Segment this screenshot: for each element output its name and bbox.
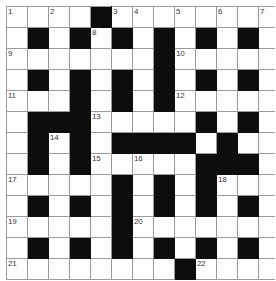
letter-cell[interactable] xyxy=(7,70,28,91)
letter-cell[interactable] xyxy=(91,196,112,217)
letter-cell[interactable]: 18 xyxy=(217,175,238,196)
letter-cell[interactable] xyxy=(259,259,276,280)
letter-cell[interactable] xyxy=(28,7,49,28)
letter-cell[interactable] xyxy=(259,28,276,49)
letter-cell[interactable] xyxy=(259,175,276,196)
letter-cell[interactable] xyxy=(91,133,112,154)
letter-cell[interactable] xyxy=(259,217,276,238)
letter-cell[interactable] xyxy=(238,259,259,280)
letter-cell[interactable] xyxy=(7,196,28,217)
letter-cell[interactable]: 2 xyxy=(49,7,70,28)
letter-cell[interactable] xyxy=(28,175,49,196)
letter-cell[interactable]: 12 xyxy=(175,91,196,112)
letter-cell[interactable] xyxy=(7,238,28,259)
letter-cell[interactable] xyxy=(217,196,238,217)
letter-cell[interactable] xyxy=(217,217,238,238)
letter-cell[interactable] xyxy=(238,49,259,70)
letter-cell[interactable] xyxy=(7,133,28,154)
letter-cell[interactable]: 6 xyxy=(217,7,238,28)
letter-cell[interactable] xyxy=(238,175,259,196)
letter-cell[interactable] xyxy=(112,112,133,133)
letter-cell[interactable] xyxy=(133,259,154,280)
letter-cell[interactable]: 4 xyxy=(133,7,154,28)
letter-cell[interactable]: 16 xyxy=(133,154,154,175)
letter-cell[interactable] xyxy=(196,133,217,154)
letter-cell[interactable] xyxy=(196,49,217,70)
letter-cell[interactable] xyxy=(196,217,217,238)
letter-cell[interactable] xyxy=(49,259,70,280)
letter-cell[interactable] xyxy=(49,91,70,112)
letter-cell[interactable] xyxy=(154,154,175,175)
letter-cell[interactable] xyxy=(154,112,175,133)
letter-cell[interactable] xyxy=(70,217,91,238)
letter-cell[interactable]: 13 xyxy=(91,112,112,133)
letter-cell[interactable] xyxy=(91,91,112,112)
letter-cell[interactable] xyxy=(196,7,217,28)
letter-cell[interactable] xyxy=(175,196,196,217)
letter-cell[interactable] xyxy=(259,196,276,217)
letter-cell[interactable] xyxy=(112,154,133,175)
letter-cell[interactable] xyxy=(133,49,154,70)
letter-cell[interactable] xyxy=(70,7,91,28)
letter-cell[interactable] xyxy=(91,259,112,280)
letter-cell[interactable]: 17 xyxy=(7,175,28,196)
letter-cell[interactable] xyxy=(7,112,28,133)
letter-cell[interactable] xyxy=(217,28,238,49)
letter-cell[interactable] xyxy=(133,175,154,196)
letter-cell[interactable] xyxy=(133,238,154,259)
letter-cell[interactable] xyxy=(49,217,70,238)
letter-cell[interactable] xyxy=(259,70,276,91)
letter-cell[interactable] xyxy=(217,70,238,91)
letter-cell[interactable] xyxy=(175,175,196,196)
letter-cell[interactable] xyxy=(238,91,259,112)
letter-cell[interactable] xyxy=(238,217,259,238)
letter-cell[interactable] xyxy=(154,7,175,28)
letter-cell[interactable] xyxy=(133,112,154,133)
letter-cell[interactable] xyxy=(28,217,49,238)
letter-cell[interactable] xyxy=(91,217,112,238)
letter-cell[interactable] xyxy=(133,91,154,112)
letter-cell[interactable]: 22 xyxy=(196,259,217,280)
letter-cell[interactable] xyxy=(175,112,196,133)
letter-cell[interactable] xyxy=(28,259,49,280)
letter-cell[interactable] xyxy=(70,259,91,280)
letter-cell[interactable] xyxy=(175,154,196,175)
letter-cell[interactable] xyxy=(238,133,259,154)
letter-cell[interactable] xyxy=(91,49,112,70)
letter-cell[interactable] xyxy=(91,70,112,91)
letter-cell[interactable] xyxy=(217,238,238,259)
letter-cell[interactable]: 10 xyxy=(175,49,196,70)
letter-cell[interactable] xyxy=(49,28,70,49)
letter-cell[interactable] xyxy=(259,49,276,70)
letter-cell[interactable]: 15 xyxy=(91,154,112,175)
letter-cell[interactable] xyxy=(49,70,70,91)
letter-cell[interactable] xyxy=(133,196,154,217)
letter-cell[interactable] xyxy=(70,175,91,196)
letter-cell[interactable]: 7 xyxy=(259,7,276,28)
letter-cell[interactable] xyxy=(175,28,196,49)
letter-cell[interactable] xyxy=(7,154,28,175)
crossword-grid[interactable]: 12345678910111213141516171819202122 xyxy=(6,6,275,280)
letter-cell[interactable]: 20 xyxy=(133,217,154,238)
letter-cell[interactable] xyxy=(259,238,276,259)
letter-cell[interactable] xyxy=(91,238,112,259)
letter-cell[interactable] xyxy=(154,259,175,280)
letter-cell[interactable] xyxy=(175,70,196,91)
letter-cell[interactable] xyxy=(154,217,175,238)
letter-cell[interactable]: 1 xyxy=(7,7,28,28)
letter-cell[interactable] xyxy=(49,196,70,217)
letter-cell[interactable] xyxy=(49,49,70,70)
letter-cell[interactable] xyxy=(175,238,196,259)
letter-cell[interactable] xyxy=(49,238,70,259)
letter-cell[interactable] xyxy=(49,175,70,196)
letter-cell[interactable]: 14 xyxy=(49,133,70,154)
letter-cell[interactable]: 8 xyxy=(91,28,112,49)
letter-cell[interactable] xyxy=(112,259,133,280)
letter-cell[interactable] xyxy=(28,49,49,70)
letter-cell[interactable] xyxy=(175,217,196,238)
letter-cell[interactable] xyxy=(133,70,154,91)
letter-cell[interactable]: 19 xyxy=(7,217,28,238)
letter-cell[interactable] xyxy=(70,49,91,70)
letter-cell[interactable] xyxy=(259,154,276,175)
letter-cell[interactable] xyxy=(133,28,154,49)
